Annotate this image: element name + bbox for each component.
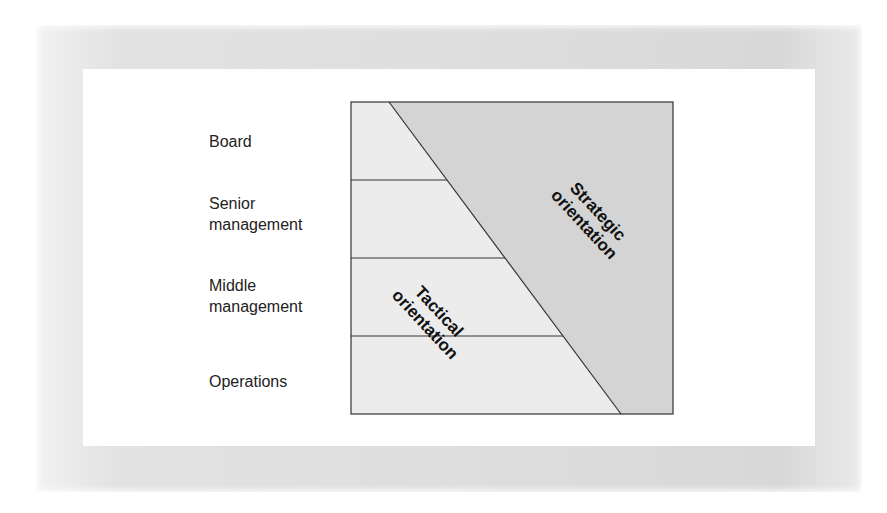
level-label-operations: Operations bbox=[209, 371, 287, 392]
level-label-senior-management: Senior management bbox=[209, 193, 302, 235]
level-label-board: Board bbox=[209, 131, 252, 152]
level-label-middle-management: Middle management bbox=[209, 275, 302, 317]
orientation-diagram bbox=[0, 0, 887, 513]
